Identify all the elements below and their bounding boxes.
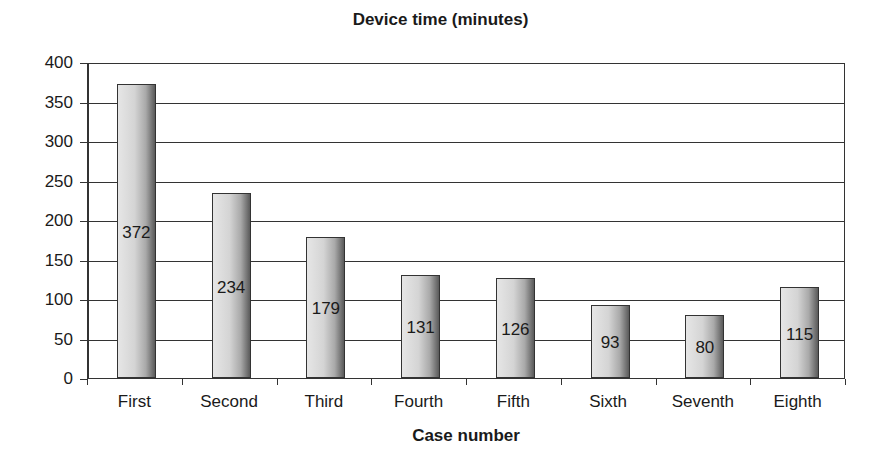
gridline: [89, 103, 844, 104]
y-tick-label: 250: [23, 173, 73, 191]
bar-value-label: 179: [296, 299, 356, 319]
y-tick-label: 0: [23, 370, 73, 388]
x-tick-label: Sixth: [561, 392, 655, 412]
x-tick: [277, 379, 278, 385]
x-tick-label: Second: [182, 392, 276, 412]
y-tick-label: 50: [23, 331, 73, 349]
x-tick-label: First: [87, 392, 181, 412]
gridline: [89, 182, 844, 183]
gridline: [89, 261, 844, 262]
plot-area: 3722341791311269380115: [87, 63, 845, 379]
x-tick-label: Fifth: [466, 392, 560, 412]
y-tick-label: 400: [23, 54, 73, 72]
x-tick-label: Eighth: [751, 392, 845, 412]
x-axis-title: Case number: [87, 426, 845, 446]
x-tick: [845, 379, 846, 385]
chart-title: Device time (minutes): [0, 10, 881, 30]
y-tick-label: 150: [23, 252, 73, 270]
gridline: [89, 142, 844, 143]
bar-value-label: 80: [675, 338, 735, 358]
bar-value-label: 93: [580, 333, 640, 353]
y-tick-label: 300: [23, 133, 73, 151]
x-tick-label: Fourth: [372, 392, 466, 412]
x-tick: [750, 379, 751, 385]
x-tick: [182, 379, 183, 385]
bar-value-label: 234: [201, 278, 261, 298]
x-tick: [656, 379, 657, 385]
x-tick-label: Seventh: [656, 392, 750, 412]
y-tick-label: 350: [23, 94, 73, 112]
bar-value-label: 126: [485, 320, 545, 340]
bar-value-label: 115: [770, 325, 830, 345]
x-tick: [466, 379, 467, 385]
bar-value-label: 131: [391, 318, 451, 338]
gridline: [89, 300, 844, 301]
y-tick-label: 200: [23, 212, 73, 230]
x-tick: [87, 379, 88, 385]
x-tick: [561, 379, 562, 385]
y-tick-label: 100: [23, 291, 73, 309]
bar-value-label: 372: [106, 223, 166, 243]
x-tick-label: Third: [277, 392, 371, 412]
gridline: [89, 221, 844, 222]
x-tick: [371, 379, 372, 385]
